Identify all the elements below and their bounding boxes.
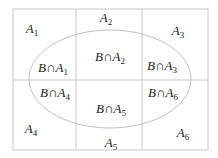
label-text: B∩A (96, 101, 121, 116)
label-text: B∩A (38, 60, 63, 75)
region-label-a2: A2 (100, 11, 112, 27)
label-subscript: 6 (173, 92, 178, 102)
intersection-label-b-a4: B∩A4 (40, 86, 70, 102)
label-text: B∩A (148, 85, 173, 100)
label-subscript: 5 (121, 108, 126, 118)
label-subscript: 3 (180, 30, 185, 40)
intersection-label-b-a6: B∩A6 (148, 86, 178, 102)
region-label-a5: A5 (105, 136, 117, 152)
label-subscript: 3 (172, 65, 177, 75)
intersection-label-b-a5: B∩A5 (96, 102, 126, 118)
label-text: B∩A (95, 49, 120, 64)
label-subscript: 6 (185, 132, 190, 142)
region-label-a6: A6 (177, 126, 189, 142)
intersection-label-b-a3: B∩A3 (147, 59, 177, 75)
label-text: A (172, 23, 180, 38)
region-label-a4: A4 (25, 122, 37, 138)
label-subscript: 5 (113, 142, 118, 152)
region-label-a3: A3 (172, 24, 184, 40)
intersection-label-b-a1: B∩A1 (38, 61, 68, 77)
label-subscript: 2 (108, 17, 113, 27)
label-text: A (100, 10, 108, 25)
label-subscript: 1 (34, 28, 39, 38)
label-subscript: 1 (63, 67, 68, 77)
label-text: A (26, 21, 34, 36)
label-subscript: 4 (65, 92, 70, 102)
intersection-label-b-a2: B∩A2 (95, 50, 125, 66)
label-text: B∩A (147, 58, 172, 73)
label-text: A (177, 125, 185, 140)
label-subscript: 4 (33, 128, 38, 138)
label-text: A (105, 135, 113, 150)
region-label-a1: A1 (26, 22, 38, 38)
label-text: B∩A (40, 85, 65, 100)
label-text: A (25, 121, 33, 136)
label-subscript: 2 (120, 56, 125, 66)
